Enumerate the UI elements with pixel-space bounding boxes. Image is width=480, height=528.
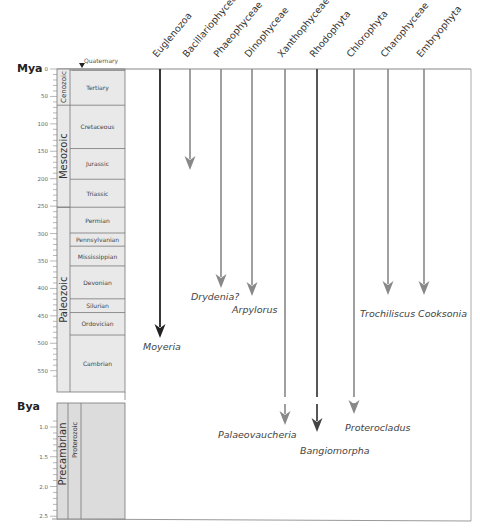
bya-tick-label: 1.0 <box>39 424 48 430</box>
lineage-dinophyceae <box>247 69 258 296</box>
era-label: Paleozoic <box>58 276 69 322</box>
mya-tick-label: 250 <box>38 203 49 209</box>
lineage-bacillariophyceae <box>185 69 196 170</box>
period-label: Pennsylvanian <box>76 236 119 244</box>
bya-axis-label: Bya <box>17 400 40 413</box>
mya-tick-label: 300 <box>38 231 49 237</box>
time-axis: MyaBya0501001502002503003504004505005501… <box>17 62 57 519</box>
fossil-labels: MoyeriaDrydenia?ArpylorusPalaeovaucheria… <box>143 291 467 456</box>
phanerozoic-block <box>57 69 125 392</box>
mya-axis-label: Mya <box>17 62 43 75</box>
period-label: Tertiary <box>85 84 109 92</box>
quaternary-label: Quaternary <box>84 57 119 65</box>
bya-tick-label: 2.5 <box>39 513 48 519</box>
period-label: Mississippian <box>78 253 118 261</box>
fossil-label: Proterocladus <box>345 422 410 433</box>
eon-label-precambrian: Precambrian <box>57 423 68 486</box>
period-label: Permian <box>85 217 110 224</box>
fossil-label: Moyeria <box>143 341 181 352</box>
lineage-euglenozoa <box>155 69 166 338</box>
lineage-labels: EuglenozoaBacillariophyceaePhaeophyceaeD… <box>150 0 463 59</box>
mya-tick-label: 500 <box>38 340 49 346</box>
fossil-label: Palaeovaucheria <box>218 429 297 440</box>
fossil-label: Trochiliscus <box>360 308 415 319</box>
lineage-charophyceae <box>383 69 394 295</box>
lineage-xanthophyceae <box>280 69 291 425</box>
period-label: Cretaceous <box>81 123 115 130</box>
period-label: Cambrian <box>83 360 112 367</box>
fossil-label: Cooksonia <box>418 308 467 319</box>
geologic-time-scale: CenozoicMesozoicPaleozoicTertiaryCretace… <box>57 57 125 519</box>
timeline-diagram: CenozoicMesozoicPaleozoicTertiaryCretace… <box>0 0 480 528</box>
fossil-label: Drydenia? <box>191 291 239 302</box>
lineage-phaeophyceae <box>216 69 227 288</box>
diagram-stage: CenozoicMesozoicPaleozoicTertiaryCretace… <box>0 0 480 528</box>
mya-tick-label: 50 <box>41 93 48 99</box>
era-label: Cenozoic <box>60 71 68 103</box>
mya-tick-label: 550 <box>38 368 49 374</box>
period-label: Triassic <box>86 190 109 197</box>
mya-tick-label: 150 <box>38 148 49 154</box>
fossil-label: Arpylorus <box>231 304 277 315</box>
period-label: Ordovician <box>81 320 113 327</box>
fossil-label: Bangiomorpha <box>300 445 370 456</box>
mya-tick-label: 450 <box>38 313 49 319</box>
era-label: Mesozoic <box>58 133 69 179</box>
mya-tick-label: 400 <box>38 285 49 291</box>
lineage-lines <box>155 69 430 432</box>
period-label: Devonian <box>83 279 112 286</box>
bya-tick-label: 1.5 <box>39 454 48 460</box>
lineage-chlorophyta <box>349 69 360 414</box>
bya-tick-label: 2.0 <box>39 484 48 490</box>
mya-tick-label: 350 <box>38 258 49 264</box>
lineage-rhodophyta <box>312 69 323 432</box>
period-label: Jurassic <box>85 160 109 168</box>
arrowhead-icon <box>349 400 360 414</box>
lineage-embryophyta <box>419 69 430 295</box>
mya-tick-label: 0 <box>45 66 49 72</box>
period-label: Silurian <box>86 302 109 309</box>
mya-tick-label: 200 <box>38 176 49 182</box>
era-label-proterozoic: Proterozoic <box>71 422 79 459</box>
mya-tick-label: 100 <box>38 121 49 127</box>
